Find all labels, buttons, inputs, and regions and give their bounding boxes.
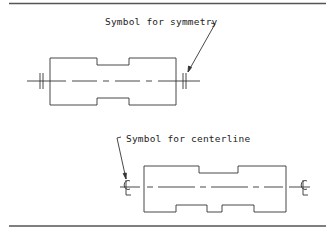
- symmetry-label: Symbol for symmetry: [105, 16, 218, 27]
- symmetry-leader-line: [188, 23, 215, 72]
- symmetric-part-outline: [50, 58, 176, 105]
- centerline-leader-line: [117, 137, 126, 179]
- centerline-part-outline: [144, 166, 286, 212]
- centerline-label: Symbol for centerline: [126, 133, 250, 144]
- arrowhead-icon: [123, 173, 126, 179]
- centerline-view: [117, 137, 310, 212]
- arrowhead-icon: [188, 66, 192, 72]
- symmetry-view: [27, 23, 215, 105]
- centerline-symbol-icon: [301, 180, 308, 195]
- centerline-symbol-icon: [124, 180, 131, 195]
- drawing-canvas: Symbol for symmetry Symbol for centerlin…: [0, 0, 335, 229]
